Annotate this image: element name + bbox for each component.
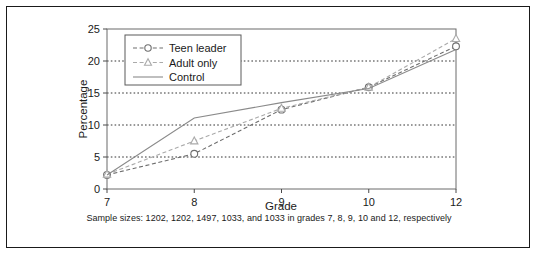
legend-item-label: Adult only [169,57,218,69]
data-point-marker [452,35,459,42]
data-point-marker [453,43,460,50]
legend-item-label: Control [169,71,204,83]
y-axis-tick-label: 10 [88,119,100,131]
x-axis-title: Grade [265,200,297,212]
legend-marker-circle-icon [145,45,151,51]
y-axis-tick-label: 5 [94,151,100,163]
line-chart: 0510152025 7891012 Percentage Grade Teen… [7,7,531,213]
y-axis-tick-label: 20 [88,55,100,67]
figure-caption: Sample sizes: 1202, 1202, 1497, 1033, an… [7,213,531,223]
x-axis-tick-label: 10 [363,196,375,208]
x-axis-tick-label: 7 [104,196,110,208]
y-axis-tick-label: 25 [88,23,100,35]
x-axis-tick-label: 12 [450,196,462,208]
chart-plot-container: 0510152025 7891012 Percentage Grade Teen… [7,7,531,213]
data-point-marker [191,150,198,157]
x-axis-tick-label: 8 [191,196,197,208]
y-axis-title: Percentage [77,80,89,139]
figure-frame: 0510152025 7891012 Percentage Grade Teen… [6,6,530,248]
chart-legend: Teen leaderAdult onlyControl [125,35,241,85]
y-axis: 0510152025 [88,23,107,195]
y-axis-tick-label: 15 [88,87,100,99]
legend-item-label: Teen leader [169,42,227,54]
y-axis-tick-label: 0 [94,183,100,195]
